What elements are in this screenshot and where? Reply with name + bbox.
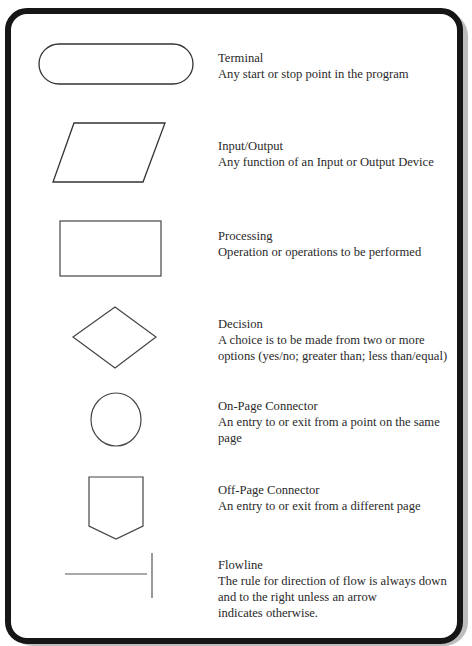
terminal-text: Any start or stop point in the program [218, 66, 409, 82]
parallelogram-icon [52, 122, 168, 184]
decision-title: Decision [218, 316, 447, 332]
terminal-icon [38, 43, 194, 85]
processing-text: Operation or operations to be performed [218, 244, 421, 260]
circle-icon [90, 392, 142, 448]
pentagon-icon [88, 476, 145, 540]
processing-title: Processing [218, 228, 421, 244]
terminal-description: Terminal Any start or stop point in the … [218, 50, 409, 82]
decision-description: Decision A choice is to be made from two… [218, 316, 447, 364]
on-page-connector-title: On-Page Connector [218, 398, 440, 414]
decision-text: A choice is to be made from two or more … [218, 332, 447, 364]
diamond-icon [72, 306, 158, 370]
flowline-title: Flowline [218, 557, 447, 573]
on-page-connector-description: On-Page Connector An entry to or exit fr… [218, 398, 440, 446]
terminal-title: Terminal [218, 50, 409, 66]
off-page-connector-text: An entry to or exit from a different pag… [218, 498, 421, 514]
rectangle-icon [59, 220, 163, 277]
input-output-text: Any function of an Input or Output Devic… [218, 154, 434, 170]
off-page-connector-title: Off-Page Connector [218, 482, 421, 498]
flowline-text: The rule for direction of flow is always… [218, 573, 447, 621]
flowline-icon [64, 553, 154, 599]
input-output-title: Input/Output [218, 138, 434, 154]
processing-description: Processing Operation or operations to be… [218, 228, 421, 260]
input-output-description: Input/Output Any function of an Input or… [218, 138, 434, 170]
flowline-description: Flowline The rule for direction of flow … [218, 557, 447, 621]
on-page-connector-text: An entry to or exit from a point on the … [218, 414, 440, 446]
off-page-connector-description: Off-Page Connector An entry to or exit f… [218, 482, 421, 514]
